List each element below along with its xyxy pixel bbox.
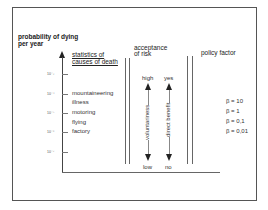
- direct-benefit-top-label: yes: [164, 75, 173, 81]
- policy-factor: β = 0,01: [226, 128, 248, 134]
- direct-benefit-bottom-label: no: [165, 164, 172, 170]
- voluntariness-top-label: high: [142, 75, 153, 81]
- x-baseline: [62, 172, 220, 173]
- statistics-header-2: causes of death: [72, 58, 118, 65]
- tick-mark: [62, 94, 68, 95]
- tick-label: 10⁻⁵: [47, 111, 54, 115]
- cause-label: mountaineering: [72, 90, 113, 96]
- tick-label: 10⁻³: [47, 72, 54, 76]
- tick-mark: [62, 132, 68, 133]
- column-divider-1: [125, 58, 126, 164]
- cause-label: motoring: [72, 109, 95, 115]
- voluntariness-label: voluntariness: [144, 105, 150, 140]
- column-divider-2: [129, 58, 130, 164]
- tick-label: 10⁻⁴: [47, 92, 54, 96]
- policy-factor: β = 10: [226, 98, 243, 104]
- cause-label: factory: [72, 128, 90, 134]
- acceptance-header-2: of risk: [134, 50, 151, 57]
- tick-mark: [62, 74, 68, 75]
- direct-benefit-label: direct benefit: [165, 103, 171, 137]
- tick-label: 10⁻⁶: [47, 130, 54, 134]
- policy-factor: β = 0,1: [226, 118, 245, 124]
- y-axis-label: probability of dying per year: [18, 33, 88, 47]
- down-arrow-icon: [166, 154, 172, 161]
- cause-label: flying: [72, 119, 86, 125]
- column-divider-4: [192, 56, 193, 164]
- statistics-header-1: statistics of: [72, 51, 104, 58]
- tick-mark: [62, 113, 68, 114]
- up-arrow-icon: [145, 83, 151, 90]
- up-arrow-icon: [166, 83, 172, 90]
- policy-header: policy factor: [201, 49, 236, 56]
- voluntariness-bottom-label: low: [143, 164, 152, 170]
- tick-mark: [62, 152, 68, 153]
- column-divider-3: [187, 56, 188, 164]
- cause-label: illness: [72, 99, 89, 105]
- down-arrow-icon: [145, 154, 151, 161]
- tick-label: 10⁻⁷: [47, 150, 54, 154]
- policy-factor: β = 1: [226, 108, 240, 114]
